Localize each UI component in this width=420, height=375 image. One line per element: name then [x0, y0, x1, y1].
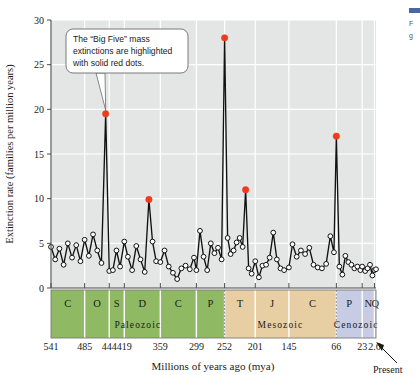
data-point [212, 251, 217, 256]
data-point [95, 248, 100, 253]
period-letter: T [237, 298, 244, 309]
x-axis-title: Millions of years ago (mya) [152, 360, 275, 373]
big-five-dot [221, 35, 227, 41]
data-point [368, 262, 373, 267]
y-tick-label: 5 [39, 238, 44, 249]
data-point [282, 268, 287, 273]
data-point [294, 254, 299, 259]
data-point [74, 243, 79, 248]
data-point [175, 277, 180, 282]
x-tick-label: 252 [217, 341, 232, 352]
x-tick-label: 419 [117, 341, 132, 352]
x-tick-label: 23 [357, 341, 367, 352]
y-tick-label: 30 [34, 15, 44, 26]
data-point [286, 265, 291, 270]
x-tick-label: 485 [77, 341, 92, 352]
chart-svg: 051015202530 541485444419359299252201145… [0, 0, 420, 375]
callout-line-1: The “Big Five” mass [73, 34, 150, 44]
period-letter: Q [371, 298, 379, 309]
edge-text-line-2: g [409, 32, 413, 40]
data-point [231, 248, 236, 253]
data-point [65, 241, 70, 246]
data-point [264, 262, 269, 267]
x-tick-label: 359 [153, 341, 168, 352]
data-point [340, 272, 345, 277]
period-letter: J [270, 298, 274, 309]
data-point [267, 255, 272, 260]
data-point [130, 268, 135, 273]
data-point [208, 241, 213, 246]
edge-text-line-1: F [409, 20, 413, 27]
period-letter: S [114, 298, 120, 309]
data-point [110, 268, 115, 273]
data-point [332, 250, 337, 255]
period-letter: O [93, 298, 101, 309]
data-point [134, 244, 139, 249]
data-point [183, 263, 188, 268]
data-point [234, 240, 239, 245]
x-tick-label: 201 [248, 341, 263, 352]
data-point [307, 245, 312, 250]
data-point [237, 236, 242, 241]
data-point [320, 266, 325, 271]
data-point [86, 253, 91, 258]
era-label: Mesozoic [258, 320, 304, 330]
data-point [249, 271, 254, 276]
data-point [99, 261, 104, 266]
y-tick-label: 20 [34, 104, 44, 115]
data-point [205, 268, 210, 273]
data-point [240, 245, 245, 250]
data-point [53, 257, 58, 262]
data-point [201, 254, 206, 259]
period-letter: D [139, 298, 147, 309]
big-five-dot [102, 111, 108, 117]
edge-heading-bar [409, 8, 420, 13]
data-point [192, 255, 197, 260]
data-point [343, 253, 348, 258]
data-point [256, 275, 261, 280]
big-five-dot [242, 187, 248, 193]
period-letter: P [208, 298, 214, 309]
data-point [150, 239, 155, 244]
y-axis-title: Extinction rate (families per million ye… [4, 64, 16, 244]
data-point [78, 259, 83, 264]
data-point [171, 270, 176, 275]
x-tick-label: 66 [331, 341, 341, 352]
data-point [290, 242, 295, 247]
data-point [61, 262, 66, 267]
data-point [216, 245, 221, 250]
data-point [91, 232, 96, 237]
callout-line-2: extinctions are highlighted [73, 46, 173, 56]
y-tick-label: 10 [34, 193, 44, 204]
present-label: Present [373, 364, 403, 375]
data-point [370, 273, 375, 278]
data-point [70, 255, 75, 260]
era-label: Cenozoic [334, 320, 379, 330]
data-point [360, 264, 365, 269]
data-point [328, 234, 333, 239]
data-point [374, 267, 379, 272]
data-point [166, 264, 171, 269]
data-point [299, 248, 304, 253]
data-point [82, 237, 87, 242]
data-point [219, 257, 224, 262]
y-tick-label: 15 [34, 149, 44, 160]
data-point [142, 270, 147, 275]
data-point [225, 236, 230, 241]
data-point [138, 257, 143, 262]
period-letter: C [309, 298, 316, 309]
era-label: Paleozoic [114, 320, 161, 330]
data-point [324, 261, 329, 266]
data-point [194, 268, 199, 273]
extinction-rate-chart: 051015202530 541485444419359299252201145… [0, 0, 420, 375]
data-point [122, 239, 127, 244]
data-point [118, 264, 123, 269]
data-point [198, 228, 203, 233]
data-point [125, 254, 130, 259]
big-five-dot [146, 196, 152, 202]
period-letter: C [64, 298, 71, 309]
data-point [57, 246, 62, 251]
data-point [271, 230, 276, 235]
x-tick-label: 444 [102, 341, 117, 352]
period-letter: C [175, 298, 182, 309]
